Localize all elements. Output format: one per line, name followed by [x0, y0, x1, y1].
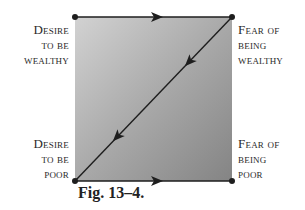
label-fear-of-being-wealthy: Fear of being wealthy: [238, 22, 283, 67]
label-line: poor: [238, 166, 279, 181]
label-line: Fear of: [238, 136, 279, 151]
label-line: Desire: [24, 22, 69, 37]
label-line: to be: [33, 151, 69, 166]
label-line: being: [238, 37, 283, 52]
label-line: wealthy: [24, 52, 69, 67]
corner-dot-top-left: [72, 14, 78, 20]
label-fear-of-being-poor: Fear of being poor: [238, 136, 279, 181]
corner-dot-bottom-right: [229, 178, 235, 184]
label-line: Desire: [33, 136, 69, 151]
label-line: to be: [24, 37, 69, 52]
figure-caption: Fig. 13–4.: [78, 184, 144, 202]
label-desire-to-be-poor: Desire to be poor: [33, 136, 69, 181]
fig-13-4-diagram: Desire to be wealthy Fear of being wealt…: [0, 0, 305, 210]
label-line: poor: [33, 166, 69, 181]
label-line: wealthy: [238, 52, 283, 67]
label-desire-to-be-wealthy: Desire to be wealthy: [24, 22, 69, 67]
label-line: being: [238, 151, 279, 166]
label-line: Fear of: [238, 22, 283, 37]
corner-dot-top-right: [229, 14, 235, 20]
